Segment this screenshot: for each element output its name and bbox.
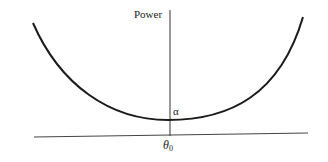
alpha-label: α <box>173 106 179 117</box>
y-axis-label: Power <box>134 9 162 20</box>
x-axis <box>34 133 308 137</box>
power-curve <box>33 17 303 120</box>
power-function-chart: Power α θ0 <box>0 0 328 162</box>
theta0-label: θ0 <box>163 139 173 153</box>
theta-subscript: 0 <box>169 144 173 153</box>
